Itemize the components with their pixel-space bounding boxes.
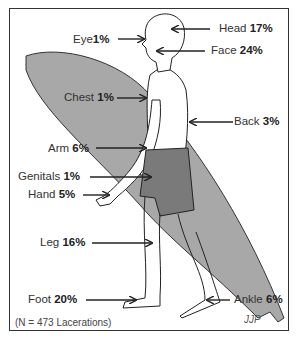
label-hand: Hand 5% bbox=[28, 188, 75, 201]
head-outline bbox=[142, 14, 185, 72]
label-eye: Eye1% bbox=[73, 33, 109, 46]
label-ankle: Ankle 6% bbox=[234, 293, 283, 306]
label-foot: Foot 20% bbox=[28, 293, 77, 306]
sample-size-note: (N = 473 Lacerations) bbox=[15, 317, 111, 328]
label-head: Head 17% bbox=[219, 22, 273, 35]
label-back: Back 3% bbox=[234, 115, 279, 128]
artist-signature: JJP bbox=[244, 314, 261, 325]
label-chest: Chest 1% bbox=[64, 91, 114, 104]
label-arm: Arm 6% bbox=[48, 142, 89, 155]
label-leg: Leg 16% bbox=[40, 236, 85, 249]
label-genitals: Genitals 1% bbox=[18, 170, 80, 183]
label-face: Face 24% bbox=[211, 44, 263, 57]
